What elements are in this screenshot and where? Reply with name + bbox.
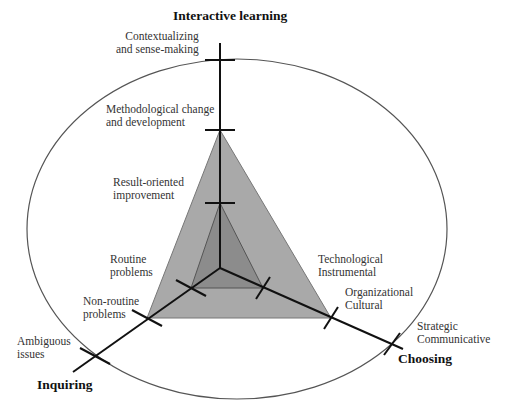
label-organizational-cultural: Organizational Cultural (345, 286, 413, 312)
label-contextualizing: Contextualizing and sense-making (116, 30, 199, 56)
axis-title-inquiring: Inquiring (37, 377, 93, 393)
label-ambiguous-issues: Ambiguous issues (17, 335, 71, 361)
label-strategic-communicative: Strategic Communicative (417, 320, 490, 346)
label-non-routine-problems: Non-routine problems (83, 295, 139, 321)
label-routine-problems: Routine problems (110, 253, 153, 279)
label-result-oriented: Result-oriented improvement (113, 176, 184, 202)
axis-title-interactive-learning: Interactive learning (173, 8, 287, 24)
outer-triangle (147, 130, 331, 318)
label-technological-instrumental: Technological Instrumental (318, 253, 383, 279)
label-methodological-change: Methodological change and development (106, 103, 214, 129)
axis-title-choosing: Choosing (398, 351, 452, 367)
